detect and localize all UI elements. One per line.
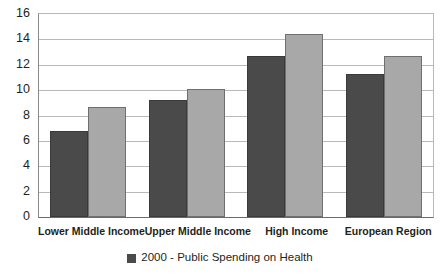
x-axis-category-labels: Lower Middle IncomeUpper Middle IncomeHi… [38, 222, 434, 240]
y-axis-tick-label: 12 [16, 58, 30, 71]
bar-group [39, 14, 138, 217]
legend-swatch-icon [127, 254, 136, 263]
bar [187, 89, 225, 217]
plot-area [38, 13, 434, 218]
y-axis-tick-label: 6 [23, 134, 30, 147]
bars-layer [39, 14, 433, 217]
y-axis-tick-label: 10 [16, 83, 30, 96]
chart-legend: 2000 - Public Spending on Health [0, 250, 440, 266]
plot-wrapper: 1614121086420 [0, 0, 440, 222]
y-axis-tick-label: 0 [23, 210, 30, 223]
bar [50, 131, 88, 217]
x-axis-label: Lower Middle Income [38, 226, 145, 237]
legend-item: 2000 - Public Spending on Health [127, 252, 312, 264]
y-axis-tick-label: 2 [23, 184, 30, 197]
y-axis: 1614121086420 [0, 0, 34, 222]
y-axis-tick-label: 14 [16, 32, 30, 45]
bar-group [138, 14, 237, 217]
legend-label: 2000 - Public Spending on Health [141, 252, 312, 264]
x-axis-label: Upper Middle Income [145, 226, 251, 237]
bar [285, 34, 323, 217]
bar [346, 74, 384, 217]
y-axis-tick-label: 8 [23, 108, 30, 121]
bar [88, 107, 126, 217]
y-axis-tick-label: 4 [23, 159, 30, 172]
bar-group [236, 14, 335, 217]
bar-chart: 1614121086420 Lower Middle IncomeUpper M… [0, 0, 440, 273]
x-axis-label: High Income [251, 226, 343, 237]
bar [247, 56, 285, 217]
x-axis-label: European Region [342, 226, 434, 237]
bar-group [335, 14, 434, 217]
bar [384, 56, 422, 217]
bar [149, 100, 187, 217]
y-axis-tick-label: 16 [16, 7, 30, 20]
